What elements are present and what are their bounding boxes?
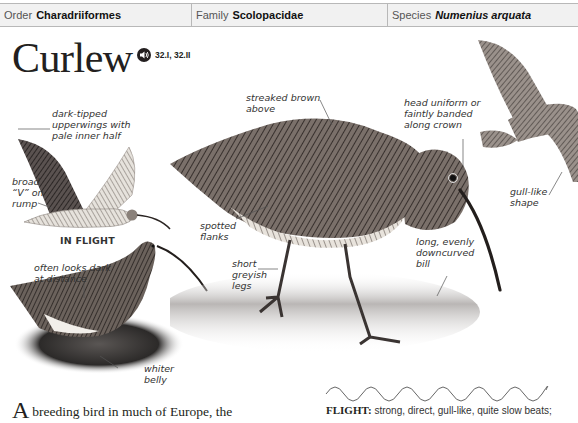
species-label: Species: [392, 9, 431, 21]
annotation-spotted-flanks: spotted flanks: [200, 220, 236, 242]
audio-reference[interactable]: 32.I, 32.II: [137, 48, 190, 62]
audio-tracks: 32.I, 32.II: [155, 50, 190, 60]
taxonomy-bar: Order Charadriiformes Family Scolopacida…: [0, 3, 578, 27]
annotation-legs: short greyish legs: [232, 258, 267, 291]
flight-description: FLIGHT: strong, direct, gull-like, quite…: [326, 404, 552, 416]
description-text: breeding bird in much of Europe, the: [32, 404, 232, 419]
order-label: Order: [4, 9, 32, 21]
in-flight-caption: IN FLIGHT: [60, 235, 115, 246]
curlew-flying-right-illustration: [478, 32, 578, 182]
family-cell: Family Scolopacidae: [192, 4, 388, 26]
order-value: Charadriiformes: [36, 9, 121, 21]
order-cell: Order Charadriiformes: [0, 4, 192, 26]
family-label: Family: [196, 9, 228, 21]
flight-keyword: FLIGHT:: [326, 404, 372, 416]
drop-cap: A: [12, 397, 29, 423]
annotation-whiter-belly: whiter belly: [144, 363, 174, 385]
species-title: Curlew: [12, 34, 133, 82]
family-value: Scolopacidae: [232, 9, 303, 21]
flight-pattern-wave: [326, 386, 548, 401]
annotation-streaked: streaked brown above: [246, 92, 320, 114]
speaker-icon[interactable]: [137, 48, 151, 62]
annotation-upperwings: dark-tipped upperwings with pale inner h…: [52, 108, 130, 141]
annotation-dark-distance: often looks dark at distance: [34, 262, 111, 284]
species-description: Abreeding bird in much of Europe, the: [12, 400, 232, 420]
species-value: Numenius arquata: [435, 9, 531, 21]
annotation-head: head uniform or faintly banded along cro…: [404, 97, 480, 130]
flight-text: strong, direct, gull-like, quite slow be…: [374, 405, 551, 416]
annotation-gull-like: gull-like shape: [510, 186, 547, 208]
annotation-rump: broad “V” on rump: [12, 176, 44, 209]
species-cell: Species Numenius arquata: [388, 4, 578, 26]
annotation-bill: long, evenly downcurved bill: [416, 236, 474, 269]
